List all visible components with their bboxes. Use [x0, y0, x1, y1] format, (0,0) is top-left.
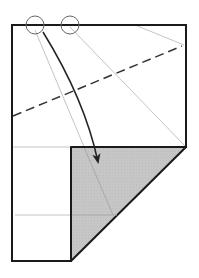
folded-flap	[71, 147, 186, 261]
origami-diagram	[0, 0, 199, 278]
